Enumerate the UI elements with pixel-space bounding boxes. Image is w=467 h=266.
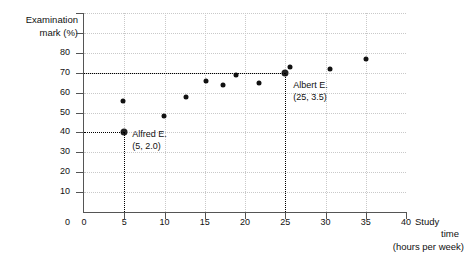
y-axis-title: Examination mark (%) [6,14,78,39]
y-axis-tick [76,172,84,173]
data-point [221,82,226,87]
x-axis-title: Study time [415,216,467,240]
annotation-name: Alfred E. [132,129,167,139]
y-axis-tick-label: 70 [44,68,70,77]
gridline-vertical [165,13,166,212]
gridline-vertical [205,13,206,212]
data-point [257,80,262,85]
annotation-name: Albert E. [293,80,328,90]
x-axis-tick-label: 35 [351,218,381,227]
scatter-plot-figure: Examination mark (%) 10203040506070800 0… [0,0,467,266]
y-axis-tick-label: 80 [44,48,70,57]
annotation-coordinates: (25, 3.5) [293,91,328,103]
y-axis-tick [76,13,84,14]
plot-area [84,13,406,212]
data-point [363,56,368,61]
gridline-vertical [326,13,327,212]
x-axis-title-line-2: time [415,228,459,240]
grid-lines [84,13,406,212]
y-axis-tick-label: 10 [44,187,70,196]
y-axis-tick [76,93,84,94]
guide-line-albert-vertical [285,73,286,212]
y-axis-tick-label: 60 [44,88,70,97]
y-axis-tick [76,113,84,114]
guide-line-alfred-vertical [124,132,125,212]
y-axis-tick [76,33,84,34]
y-axis-tick-label: 30 [44,147,70,156]
y-axis-tick-label: 50 [44,108,70,117]
y-axis-title-line-1: Examination [26,14,78,25]
guide-line-alfred-horizontal [84,132,124,133]
y-axis-tick [76,132,84,133]
y-axis-tick-label: 20 [44,167,70,176]
guide-line-albert-horizontal [84,73,285,74]
gridline-vertical [366,13,367,212]
x-axis-unit-label: (hours per week) [352,241,464,252]
annotation-coordinates: (5, 2.0) [132,140,167,152]
x-axis-tick-label: 0 [69,218,99,227]
data-point [328,66,333,71]
annotation-alfred: Alfred E.(5, 2.0) [132,128,167,152]
data-point [121,98,126,103]
data-point [203,78,208,83]
x-axis-title-line-1: Study [415,216,439,227]
y-axis-tick [76,152,84,153]
x-axis-tick-label: 10 [150,218,180,227]
data-point [288,64,293,69]
gridline-vertical [245,13,246,212]
x-axis-tick-label: 25 [270,218,300,227]
y-axis-tick [76,53,84,54]
y-axis-tick-label: 40 [44,127,70,136]
y-axis-origin-label: 0 [44,218,70,227]
data-point [161,114,166,119]
annotation-albert: Albert E.(25, 3.5) [293,79,328,103]
y-axis-tick [76,73,84,74]
x-axis-tick-label: 5 [109,218,139,227]
x-axis-tick-label: 20 [230,218,260,227]
x-axis-tick-label: 30 [311,218,341,227]
data-point [184,94,189,99]
y-axis-tick [76,192,84,193]
y-axis-title-line-2: mark (%) [39,27,78,38]
x-axis-tick-label: 15 [190,218,220,227]
